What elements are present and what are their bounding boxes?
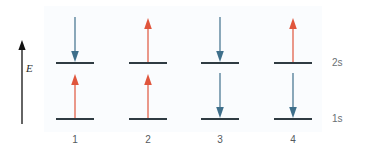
level-line-2s — [201, 62, 239, 64]
column-caption-2: 2 — [113, 134, 183, 145]
electron-2s-column-4 — [274, 17, 312, 63]
electron-1s-column-1 — [56, 73, 94, 119]
up-arrow-icon — [68, 73, 82, 119]
level-line-2s — [56, 62, 94, 64]
electron-2s-column-2 — [129, 17, 167, 63]
down-arrow-icon — [213, 17, 227, 63]
energy-level-diagram: E 1 — [0, 0, 369, 161]
electron-1s-column-2 — [129, 73, 167, 119]
up-arrow-icon — [141, 17, 155, 63]
up-arrow-icon — [141, 73, 155, 119]
column-caption-1: 1 — [40, 134, 110, 145]
level-line-2s — [274, 62, 312, 64]
electron-2s-column-3 — [201, 17, 239, 63]
orbital-column-4: 4 — [258, 0, 328, 161]
orbital-column-1: 1 — [40, 0, 110, 161]
electron-1s-column-4 — [274, 73, 312, 119]
up-arrow-icon — [286, 17, 300, 63]
level-line-2s — [129, 62, 167, 64]
orbital-label-2s: 2s — [332, 57, 343, 68]
level-line-1s — [56, 118, 94, 120]
down-arrow-icon — [286, 73, 300, 119]
column-caption-4: 4 — [258, 134, 328, 145]
level-line-1s — [129, 118, 167, 120]
level-line-1s — [201, 118, 239, 120]
level-line-1s — [274, 118, 312, 120]
electron-2s-column-1 — [56, 17, 94, 63]
orbital-column-3: 3 — [185, 0, 255, 161]
electron-1s-column-3 — [201, 73, 239, 119]
down-arrow-icon — [213, 73, 227, 119]
orbital-column-2: 2 — [113, 0, 183, 161]
orbital-label-1s: 1s — [332, 113, 343, 124]
energy-axis-label: E — [26, 62, 33, 74]
down-arrow-icon — [68, 17, 82, 63]
column-caption-3: 3 — [185, 134, 255, 145]
